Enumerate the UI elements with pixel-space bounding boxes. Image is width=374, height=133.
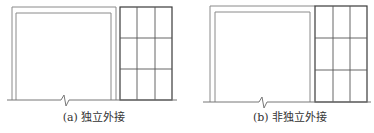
- panel-b-drawing: [203, 6, 371, 108]
- panel-b-inner-frame: [215, 12, 310, 102]
- panel-b-outer-frame: [210, 6, 315, 102]
- panel-a-inner-frame: [16, 13, 111, 100]
- figure: (a) 独立外接 (b) 非独立外接: [0, 0, 374, 133]
- panel-a-caption: (a) 独立外接: [63, 112, 126, 123]
- panel-a-grid-outline: [120, 7, 172, 100]
- panel-a-drawing: [7, 7, 177, 106]
- panel-b-grid-outline: [315, 6, 367, 102]
- panel-b-ground-line: [203, 97, 371, 108]
- panel-b-caption: (b) 非独立外接: [253, 112, 327, 123]
- panel-a-outer-frame: [12, 7, 116, 100]
- panel-a-ground-line: [7, 95, 177, 106]
